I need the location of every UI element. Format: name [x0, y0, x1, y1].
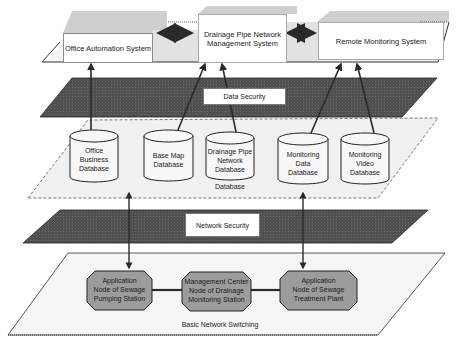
monitoring-video-database: Monitoring Video Database: [341, 150, 389, 177]
office-automation-system: Office Automation System: [63, 33, 153, 63]
base-map-database: Base Map Database: [144, 151, 193, 169]
drainage-pipe-network-database: Drainage Pipe Network Database: [204, 147, 256, 174]
data-security-label: Data Security: [203, 88, 286, 105]
monitoring-data-database: Monitoring Data Database: [278, 150, 328, 177]
sewage-treatment-plant-node: Application Node of Sewage Treatment Pla…: [280, 276, 357, 303]
office-business-database: Office Business Database: [70, 146, 118, 173]
basic-network-switching-caption: Basic Network Switching: [175, 321, 265, 328]
remote-monitoring-system: Remote Monitoring System: [318, 22, 444, 60]
drainage-pipe-network-management-system: Drainage Pipe Network Management System: [198, 14, 287, 63]
network-security-label: Network Security: [185, 213, 260, 237]
database-layer-caption: Database: [205, 183, 255, 190]
sewage-pumping-station-node: Application Node of Sewage Pumping Stati…: [87, 276, 152, 303]
drainage-monitoring-center-node: Management Center Node of Drainage Monit…: [182, 277, 251, 304]
